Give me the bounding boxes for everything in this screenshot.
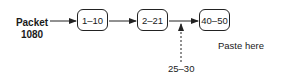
insert-range-label: 25–30: [168, 63, 194, 74]
packet-label: Packet 1080: [12, 17, 52, 41]
node-2-label: 2–21: [142, 15, 163, 26]
paste-here-annotation: Paste here: [218, 40, 264, 51]
packet-label-line1: Packet: [12, 17, 52, 29]
node-1: 1–10: [77, 9, 108, 31]
node-3-label: 40–50: [201, 15, 227, 26]
node-1-label: 1–10: [82, 15, 103, 26]
node-3: 40–50: [199, 9, 230, 31]
packet-label-line2: 1080: [12, 29, 52, 41]
node-2: 2–21: [137, 9, 168, 31]
